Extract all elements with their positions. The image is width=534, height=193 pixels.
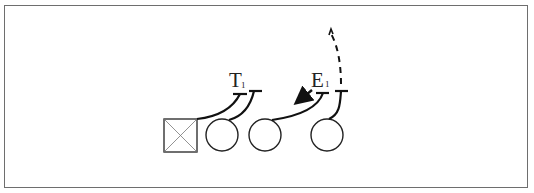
- lineman-circle-icon: [249, 119, 281, 151]
- block-route-lineman-3: [329, 91, 348, 119]
- block-route-lineman-1: [229, 91, 262, 120]
- lineman-circle-icon: [311, 119, 343, 151]
- dashed-motion-route: [329, 29, 341, 84]
- lineman-circle-icon: [206, 119, 238, 151]
- block-route-lineman-2: [272, 93, 329, 120]
- label-e1-sub: 1: [325, 79, 330, 89]
- center-square-icon: [164, 119, 197, 152]
- play-diagram: T 1 E 1: [0, 0, 534, 193]
- label-e1: E: [311, 68, 324, 92]
- label-t1-sub: 1: [241, 80, 246, 90]
